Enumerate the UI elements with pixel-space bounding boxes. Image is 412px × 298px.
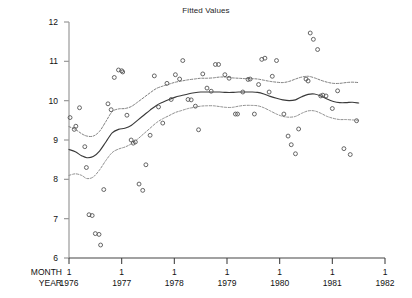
data-point-marker xyxy=(336,89,340,93)
data-point-marker xyxy=(227,76,231,80)
data-point-marker xyxy=(178,77,182,81)
data-point-marker xyxy=(137,182,141,186)
lower-confidence-band-path xyxy=(69,105,359,178)
data-point-marker xyxy=(157,105,161,109)
x-axis-tick-label: 1 xyxy=(172,267,177,277)
data-point-marker xyxy=(294,152,298,156)
data-point-marker xyxy=(289,143,293,147)
data-point-marker xyxy=(109,108,113,112)
y-axis-tick-label: 12 xyxy=(49,17,59,27)
data-point-marker xyxy=(297,127,301,131)
data-point-marker xyxy=(282,112,286,116)
data-point-marker xyxy=(308,31,312,35)
scatter-points xyxy=(68,31,358,247)
data-point-marker xyxy=(316,48,320,52)
data-point-marker xyxy=(173,73,177,77)
data-point-marker xyxy=(252,112,256,116)
fit-line xyxy=(69,92,359,158)
x-axis-tick-label: 1 xyxy=(67,267,72,277)
x-axis-tick-label: 1 xyxy=(330,267,335,277)
x-axis-row-label: MONTH xyxy=(31,267,62,277)
data-point-marker xyxy=(125,113,129,117)
data-point-marker xyxy=(152,74,156,78)
data-point-marker xyxy=(209,89,213,93)
x-axis-tick-label: 1979 xyxy=(218,278,237,288)
data-point-marker xyxy=(84,166,88,170)
data-point-marker xyxy=(144,163,148,167)
y-axis: 1211109876 xyxy=(49,17,69,263)
x-axis-row-label: YEAR xyxy=(39,278,62,288)
x-axis-tick-label: 1 xyxy=(277,267,282,277)
data-point-marker xyxy=(267,90,271,94)
data-point-marker xyxy=(201,72,205,76)
data-point-marker xyxy=(330,107,334,111)
x-axis-tick-label: 1978 xyxy=(165,278,184,288)
y-axis-tick-label: 10 xyxy=(49,96,59,106)
data-point-marker xyxy=(342,147,346,151)
data-point-marker xyxy=(197,128,201,132)
data-point-marker xyxy=(106,102,110,106)
data-point-marker xyxy=(78,106,82,110)
y-axis-tick-label: 6 xyxy=(53,253,58,263)
data-point-marker xyxy=(97,232,101,236)
data-point-marker xyxy=(83,145,87,149)
x-axis-tick-label: 1980 xyxy=(270,278,289,288)
data-point-marker xyxy=(275,59,279,63)
data-point-marker xyxy=(161,121,165,125)
x-axis-tick-label: 1 xyxy=(119,267,124,277)
x-axis-row-labels: MONTHYEAR xyxy=(31,267,62,288)
data-point-marker xyxy=(141,188,145,192)
chart-container: Fitted Values 1211109876 111111119761977… xyxy=(0,0,412,298)
upper-confidence-band-path xyxy=(69,76,359,136)
data-point-marker xyxy=(270,74,274,78)
data-point-marker xyxy=(223,73,227,77)
data-point-marker xyxy=(286,134,290,138)
y-axis-tick-label: 11 xyxy=(49,56,58,66)
x-axis-tick-label: 1982 xyxy=(376,278,395,288)
fit-path xyxy=(69,92,359,158)
x-axis-tick-label: 1977 xyxy=(112,278,131,288)
data-point-marker xyxy=(205,86,209,90)
x-axis xyxy=(69,258,385,264)
chart-plot-area: 1211109876 11111111976197719781979198019… xyxy=(0,0,412,298)
data-point-marker xyxy=(348,153,352,157)
data-point-marker xyxy=(148,133,152,137)
data-point-marker xyxy=(311,37,315,41)
y-axis-tick-label: 8 xyxy=(53,174,58,184)
x-axis-tick-label: 1 xyxy=(225,267,230,277)
data-point-marker xyxy=(181,59,185,63)
data-point-marker xyxy=(112,76,116,80)
data-point-marker xyxy=(102,188,106,192)
x-axis-tick-label: 1 xyxy=(383,267,388,277)
data-point-marker xyxy=(99,243,103,247)
x-axis-tick-labels: 11111111976197719781979198019811982 xyxy=(60,267,395,288)
x-axis-tick-label: 1976 xyxy=(60,278,79,288)
data-point-marker xyxy=(257,83,261,87)
x-axis-tick-label: 1981 xyxy=(323,278,342,288)
y-axis-tick-label: 7 xyxy=(53,214,58,224)
y-axis-tick-label: 9 xyxy=(53,135,58,145)
